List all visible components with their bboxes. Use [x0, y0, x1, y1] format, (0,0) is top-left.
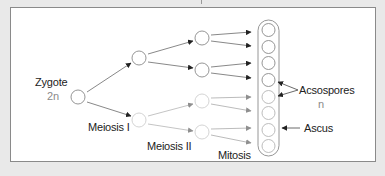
ascospore-2 [262, 41, 275, 54]
ascospore-5 [262, 91, 275, 104]
zygote-cell [71, 90, 85, 104]
label-ascospores: Acsospores [299, 84, 354, 96]
arrow-mitosis-6 [211, 104, 251, 111]
arrow-mitosis-8 [211, 135, 251, 143]
arrow-mitosis-7 [211, 128, 251, 129]
label-mitosis: Mitosis [218, 149, 251, 161]
meiosis2-cell-1 [195, 31, 209, 45]
ascospore-7 [262, 124, 275, 137]
ascospore-8 [262, 140, 275, 153]
meiosis1-cell-top [132, 51, 146, 65]
label-ascus: Ascus [304, 122, 333, 134]
label-meiosis-2: Meiosis II [147, 140, 191, 152]
label-meiosis-1: Meiosis I [88, 121, 130, 133]
label-ascospores-ploidy: n [318, 98, 324, 110]
arrow-mitosis-3 [211, 63, 251, 67]
arrow-mitosis-1 [211, 32, 251, 35]
ascospore-1 [262, 24, 275, 37]
ascospore-3 [262, 57, 275, 70]
arrow-zygote-to-m1-bottom [87, 102, 131, 116]
arrow-mitosis-2 [211, 41, 251, 46]
label-zygote-ploidy: 2n [47, 90, 59, 102]
meiosis2-cell-2 [195, 63, 209, 77]
arrow-m1-to-m2-3 [148, 104, 193, 116]
meiosis2-cell-4 [195, 125, 209, 139]
arrow-mitosis-4 [211, 73, 251, 78]
arrow-m1-to-m2-2 [148, 62, 193, 68]
label-zygote: Zygote [35, 76, 67, 88]
arrow-m1-to-m2-1 [148, 41, 193, 54]
pointer-ascospores-lower [278, 90, 298, 96]
ascospore-4 [262, 74, 275, 87]
meiosis2-cell-3 [195, 94, 209, 108]
arrow-zygote-to-m1-top [87, 63, 131, 92]
meiosis1-cell-bottom [132, 113, 146, 127]
arrow-mitosis-5 [211, 97, 251, 98]
arrow-m1-to-m2-4 [148, 124, 193, 131]
pointer-ascospores-upper [278, 82, 298, 90]
ascospore-6 [262, 107, 275, 120]
